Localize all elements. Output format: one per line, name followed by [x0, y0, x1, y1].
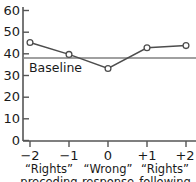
line-chart: 60 50 40 30 20 10 0: [0, 0, 196, 182]
data-point-plus2: [183, 43, 189, 49]
x-tick-label-plus1: +1: [132, 149, 162, 162]
data-point-minus1: [66, 52, 72, 58]
baseline-annotation-label: Baseline: [28, 61, 83, 74]
x-group-rights-following: “Rights” following: [134, 163, 196, 182]
y-tick-marks: [23, 11, 29, 141]
x-tick-label-minus1: −1: [54, 149, 84, 162]
x-group-wrong-response: “Wrong” response: [77, 163, 139, 182]
x-tick-label-zero: 0: [93, 149, 123, 162]
data-point-minus2: [27, 40, 33, 46]
x-tick-marks: [30, 141, 186, 147]
x-tick-label-plus2: +2: [170, 149, 196, 162]
x-tick-label-minus2: −2: [15, 149, 45, 162]
x-group-rights-preceding-line2: preceding: [18, 176, 80, 182]
data-point-plus1: [144, 45, 150, 51]
x-group-rights-following-line2: following: [134, 176, 196, 182]
x-group-wrong-response-line2: response: [77, 176, 139, 182]
data-point-zero: [105, 66, 111, 72]
x-group-rights-preceding: “Rights” preceding: [18, 163, 80, 182]
